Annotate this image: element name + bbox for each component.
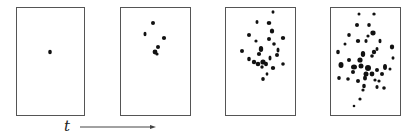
- particle-dot: [269, 56, 272, 61]
- particle-dot: [355, 23, 359, 27]
- particle-dot: [390, 45, 394, 50]
- arrow-head-icon: [150, 125, 156, 129]
- particle-dot: [364, 39, 367, 43]
- panel-frame: [331, 8, 401, 116]
- particle-dot: [370, 31, 375, 36]
- particle-dot: [254, 39, 257, 42]
- particle-dot: [380, 72, 384, 76]
- particle-dot: [270, 29, 274, 34]
- particle-dot: [264, 62, 268, 66]
- particle-dot: [376, 47, 379, 51]
- particle-dot: [277, 48, 280, 53]
- particle-dot: [267, 37, 271, 41]
- particle-dot: [357, 57, 362, 62]
- particle-dot: [370, 54, 374, 58]
- particle-dot: [347, 58, 351, 62]
- particle-dot: [377, 79, 380, 82]
- particle-dot: [256, 20, 259, 24]
- particle-dot: [347, 33, 351, 37]
- particle-dot: [362, 84, 366, 88]
- particle-dot: [240, 49, 244, 53]
- particle-dot: [272, 10, 275, 14]
- particle-dot: [155, 52, 158, 55]
- particle-dot: [267, 21, 272, 25]
- particle-dot: [375, 68, 379, 72]
- panel-3: [226, 8, 296, 116]
- particle-dot: [367, 23, 371, 27]
- particle-dot: [375, 85, 378, 89]
- particle-dot: [351, 70, 355, 74]
- particle-dot: [356, 39, 360, 43]
- particle-dot: [358, 97, 361, 100]
- panel-4: [331, 8, 401, 116]
- particle-dot: [151, 21, 155, 25]
- particle-dot: [252, 60, 256, 64]
- particle-dot: [372, 50, 376, 54]
- particle-dot: [361, 51, 365, 57]
- particle-dot: [336, 50, 340, 54]
- particle-dot: [48, 50, 52, 55]
- particle-dot: [259, 46, 263, 52]
- particle-dot: [346, 77, 350, 81]
- particle-dot: [256, 62, 261, 67]
- particle-dot: [389, 68, 392, 71]
- panel-frame: [121, 8, 191, 116]
- particle-dot: [281, 36, 285, 40]
- particle-dot: [379, 39, 382, 43]
- panel-1: [17, 8, 85, 116]
- particle-dot: [382, 86, 386, 90]
- particle-dot: [351, 65, 357, 70]
- particle-dot: [373, 78, 376, 81]
- panel-frame: [17, 8, 85, 116]
- particle-dot: [370, 72, 375, 77]
- particle-dot: [339, 62, 344, 68]
- particle-dot: [261, 77, 265, 81]
- particle-dot: [356, 79, 360, 83]
- particle-dot: [372, 13, 375, 16]
- particle-dot: [344, 43, 347, 46]
- time-axis-label: t: [64, 117, 71, 135]
- particle-dot: [365, 65, 371, 71]
- time-arrow: [80, 125, 156, 129]
- particle-dot: [257, 52, 261, 56]
- particle-dot: [363, 76, 367, 81]
- particle-dot: [156, 45, 160, 49]
- time-evolution-diagram: t: [0, 0, 415, 137]
- particle-dot: [275, 53, 279, 57]
- particle-dot: [366, 34, 369, 37]
- particle-dot: [272, 42, 276, 46]
- particle-dot: [247, 57, 251, 61]
- particle-dot: [383, 64, 387, 70]
- particle-dot: [353, 105, 356, 108]
- panel-2: [121, 8, 191, 116]
- particle-dot: [361, 88, 364, 91]
- particle-dot: [266, 72, 269, 76]
- particle-dot: [281, 62, 285, 66]
- particle-dot: [359, 64, 364, 69]
- particle-dot: [358, 13, 361, 16]
- particle-dot: [392, 56, 395, 60]
- particle-dot: [260, 65, 263, 68]
- particle-dot: [247, 33, 251, 37]
- particle-dot: [162, 36, 166, 40]
- particle-dot: [144, 32, 147, 36]
- particle-dot: [271, 66, 275, 70]
- particle-dot: [337, 76, 341, 80]
